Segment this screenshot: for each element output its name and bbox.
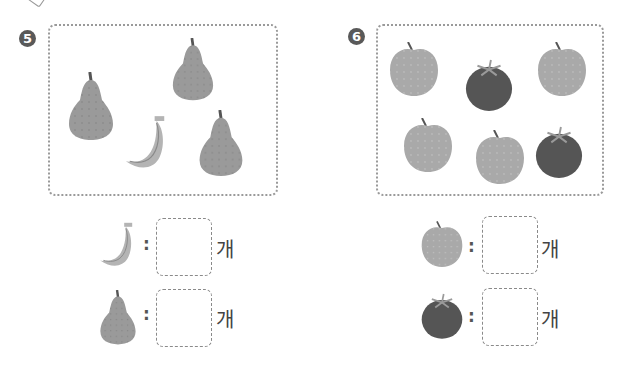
colon: : <box>468 308 475 325</box>
fruit-frame <box>376 24 604 196</box>
answer-input-pear[interactable] <box>156 289 212 347</box>
banana-icon <box>96 222 138 270</box>
unit-label: 개 <box>541 304 559 333</box>
tomato-icon <box>464 58 514 112</box>
banana-icon <box>122 114 170 174</box>
apple-icon <box>402 118 454 174</box>
tomato-icon <box>420 290 464 342</box>
pear-icon <box>196 110 246 178</box>
unit-label: 개 <box>216 234 234 263</box>
apple-icon <box>388 42 440 98</box>
problem-number-badge: 5 <box>19 30 36 47</box>
answer-input-apple[interactable] <box>482 216 538 274</box>
colon: : <box>143 236 150 253</box>
colon: : <box>143 306 150 323</box>
tomato-icon <box>534 124 584 180</box>
colon: : <box>468 238 475 255</box>
answer-input-banana[interactable] <box>156 218 212 276</box>
pear-icon <box>66 72 116 142</box>
problem-number-badge: 6 <box>348 28 365 45</box>
apple-icon <box>536 42 588 98</box>
answer-input-tomato[interactable] <box>482 288 538 346</box>
corner-decoration <box>24 0 49 8</box>
apple-icon <box>474 130 526 186</box>
unit-label: 개 <box>541 234 559 263</box>
pear-icon <box>98 290 138 346</box>
unit-label: 개 <box>216 304 234 333</box>
pear-icon <box>168 38 218 102</box>
apple-icon <box>420 220 464 270</box>
fruit-frame <box>48 24 278 196</box>
